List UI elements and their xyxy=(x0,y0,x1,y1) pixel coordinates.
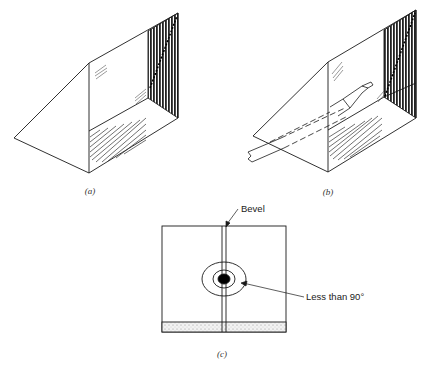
center-dot xyxy=(218,274,230,284)
figure-c-face-view xyxy=(162,226,286,332)
figure-a-dark-face xyxy=(148,13,178,118)
caption-b: (b) xyxy=(323,187,334,197)
figure-b-prism xyxy=(253,10,416,172)
diagram-canvas: (a) xyxy=(0,0,428,368)
caption-a: (a) xyxy=(85,186,96,196)
figure-a-prism xyxy=(14,13,178,173)
bevel-leader xyxy=(226,209,238,227)
bevel-label: Bevel xyxy=(241,203,265,214)
angle-label: Less than 90° xyxy=(306,291,364,302)
stipple-strip xyxy=(162,322,286,332)
caption-c: (c) xyxy=(217,349,227,359)
